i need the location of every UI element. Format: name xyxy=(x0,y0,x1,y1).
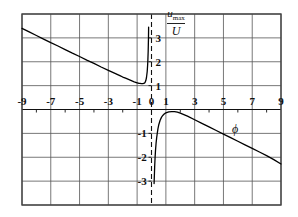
curve-upper-branch xyxy=(22,27,149,84)
x-tick-labels: -9-7-5-3-1013579 xyxy=(17,95,284,107)
x-tick-label: -5 xyxy=(75,95,85,107)
x-tick-label: -7 xyxy=(46,95,56,107)
x-tick-label: 1 xyxy=(163,95,169,107)
y-tick-label: -2 xyxy=(138,151,148,163)
y-axis-label: umax U xyxy=(154,4,198,37)
x-tick-label: -9 xyxy=(17,95,27,107)
y-axis-label-denominator: U xyxy=(154,25,198,37)
y-axis-label-max-subscript: max xyxy=(173,14,185,22)
axis-layer xyxy=(22,14,281,205)
y-tick-label: -1 xyxy=(138,127,147,139)
x-tick-label: 3 xyxy=(192,95,198,107)
x-tick-label: -1 xyxy=(133,95,142,107)
chart-canvas: -9-7-5-3-1013579 321-1-2-3 xyxy=(0,0,298,217)
x-tick-label: 5 xyxy=(221,95,227,107)
y-tick-label: 2 xyxy=(156,56,162,68)
x-tick-label: 0 xyxy=(149,95,155,107)
x-tick-label: 7 xyxy=(249,95,255,107)
x-tick-label: 9 xyxy=(278,95,284,107)
y-axis-label-numerator: umax xyxy=(167,8,185,24)
y-tick-label: 1 xyxy=(156,80,162,92)
y-tick-label: -3 xyxy=(138,175,148,187)
figure-container: -9-7-5-3-1013579 321-1-2-3 umax U ϕ xyxy=(0,0,298,217)
x-tick-label: -3 xyxy=(104,95,114,107)
x-axis-label: ϕ xyxy=(232,122,238,137)
curve-lower-branch xyxy=(154,112,281,184)
